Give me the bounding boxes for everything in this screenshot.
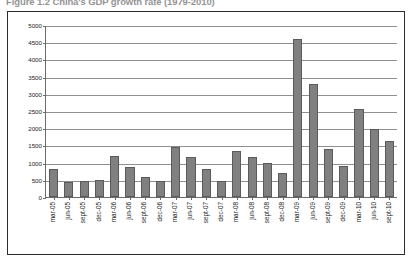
bar-slot xyxy=(199,26,214,197)
x-axis-tick-label: dec-07 xyxy=(218,202,224,222)
x-axis-tick-label: mar-07 xyxy=(172,202,178,222)
x-label-slot: jun-08 xyxy=(244,200,259,258)
x-label-slot: dec-06 xyxy=(152,200,167,258)
bar[interactable] xyxy=(64,182,73,197)
y-axis-tick-label: 500 xyxy=(32,178,42,184)
x-label-slot: sept-08 xyxy=(259,200,274,258)
bar-slot xyxy=(306,26,321,197)
bar[interactable] xyxy=(217,181,226,198)
x-axis-tick-label: mar-06 xyxy=(111,202,117,222)
bar-slot xyxy=(336,26,351,197)
bar-series xyxy=(46,26,397,197)
bar-slot xyxy=(229,26,244,197)
x-label-slot: dec-05 xyxy=(91,200,106,258)
x-label-slot: sept-09 xyxy=(320,200,335,258)
y-axis-tick xyxy=(43,95,46,96)
bar-slot xyxy=(183,26,198,197)
y-axis-tick xyxy=(43,181,46,182)
chart-frame: 0500100015002000250030003500400045005000… xyxy=(7,11,405,255)
x-label-slot: sept-07 xyxy=(198,200,213,258)
x-label-slot: dec-07 xyxy=(213,200,228,258)
y-axis-tick-label: 2500 xyxy=(28,109,42,115)
figure-title: Figure 1.2 China's GDP growth rate (1979… xyxy=(6,0,215,7)
bar[interactable] xyxy=(49,169,58,197)
bar-slot xyxy=(321,26,336,197)
bar-slot xyxy=(153,26,168,197)
bar[interactable] xyxy=(141,177,150,197)
x-axis-tick-label: mar-08 xyxy=(233,202,239,222)
y-axis-tick xyxy=(43,164,46,165)
x-axis-tick-label: mar-09 xyxy=(294,202,300,222)
bar[interactable] xyxy=(309,84,318,197)
y-axis-tick-label: 4500 xyxy=(28,40,42,46)
x-axis-tick-label: jun-06 xyxy=(126,202,132,220)
x-label-slot: sept-05 xyxy=(76,200,91,258)
y-axis-tick xyxy=(43,146,46,147)
bar-slot xyxy=(382,26,397,197)
x-axis-tick-label: sept-05 xyxy=(80,202,86,223)
bar[interactable] xyxy=(293,39,302,197)
x-axis-tick-label: dec-06 xyxy=(157,202,163,222)
x-label-slot: mar-05 xyxy=(45,200,60,258)
bar[interactable] xyxy=(171,147,180,197)
x-label-slot: mar-10 xyxy=(351,200,366,258)
bar[interactable] xyxy=(278,173,287,197)
bar-slot xyxy=(244,26,259,197)
bar[interactable] xyxy=(95,180,104,197)
x-axis-tick-label: dec-09 xyxy=(340,202,346,222)
x-label-slot: jun-06 xyxy=(121,200,136,258)
x-label-slot: mar-06 xyxy=(106,200,121,258)
bar[interactable] xyxy=(370,129,379,197)
bar-slot xyxy=(138,26,153,197)
plot-wrapper: 0500100015002000250030003500400045005000… xyxy=(8,12,404,254)
bar-slot xyxy=(214,26,229,197)
bar[interactable] xyxy=(110,156,119,197)
bar[interactable] xyxy=(339,166,348,197)
x-axis-tick-label: jun-08 xyxy=(248,202,254,220)
x-axis-tick-label: jun-07 xyxy=(187,202,193,220)
y-axis-tick-label: 3500 xyxy=(28,74,42,80)
bar[interactable] xyxy=(248,157,257,197)
x-axis-tick-label: dec-08 xyxy=(279,202,285,222)
y-axis-tick-label: 2000 xyxy=(28,126,42,132)
bar[interactable] xyxy=(385,141,394,197)
bar[interactable] xyxy=(156,181,165,198)
y-axis-tick xyxy=(43,198,46,199)
bar-slot xyxy=(367,26,382,197)
bar[interactable] xyxy=(263,163,272,197)
bar[interactable] xyxy=(186,157,195,197)
x-axis-tick-label: jun-09 xyxy=(309,202,315,220)
x-axis-tick-label: sept-06 xyxy=(141,202,147,223)
y-axis-tick xyxy=(43,129,46,130)
x-label-slot: jun-10 xyxy=(366,200,381,258)
bar-slot xyxy=(46,26,61,197)
y-axis-tick xyxy=(43,78,46,79)
x-label-slot: dec-08 xyxy=(274,200,289,258)
bar[interactable] xyxy=(324,149,333,197)
x-label-slot: sept-06 xyxy=(137,200,152,258)
y-axis-tick xyxy=(43,60,46,61)
bar[interactable] xyxy=(354,109,363,197)
bar[interactable] xyxy=(80,181,89,197)
x-axis-tick-label: mar-05 xyxy=(49,202,55,222)
x-axis-tick-label: sept-08 xyxy=(264,202,270,223)
bar-slot xyxy=(290,26,305,197)
x-label-slot: mar-08 xyxy=(229,200,244,258)
y-axis-tick-label: 3000 xyxy=(28,92,42,98)
x-axis-tick-label: sept-07 xyxy=(202,202,208,223)
x-axis-labels: mar-05jun-05sept-05dec-05mar-06jun-06sep… xyxy=(45,200,397,258)
bar-slot xyxy=(351,26,366,197)
bar-slot xyxy=(61,26,76,197)
y-axis-tick xyxy=(43,43,46,44)
y-axis-labels: 0500100015002000250030003500400045005000 xyxy=(16,26,42,198)
bar[interactable] xyxy=(232,151,241,197)
x-label-slot: jun-05 xyxy=(60,200,75,258)
x-axis-tick-label: sept-10 xyxy=(386,202,392,223)
bar[interactable] xyxy=(125,167,134,197)
y-axis-tick xyxy=(43,112,46,113)
plot-area xyxy=(45,26,397,198)
x-label-slot: mar-09 xyxy=(290,200,305,258)
x-label-slot: sept-10 xyxy=(382,200,397,258)
y-axis-tick-label: 4000 xyxy=(28,57,42,63)
bar[interactable] xyxy=(202,169,211,197)
